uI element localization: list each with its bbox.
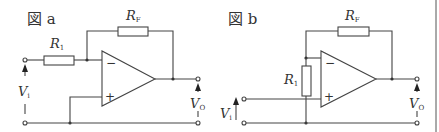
figure-b-input-terminal (242, 97, 246, 101)
figure-b-vi-label: Vi (220, 106, 232, 122)
figure-a-plus-sign: + (105, 90, 115, 104)
figure-b-resistor-r1 (302, 66, 311, 96)
figure-b: 図 b RF R1 − + Vi (220, 8, 424, 125)
figure-b-output-ground-terminal (415, 121, 419, 125)
figure-a-resistor-rf (118, 27, 148, 36)
figure-b-minus-sign: − (325, 56, 335, 70)
figure-a-junction-output (171, 77, 174, 80)
figure-a-output-terminal (196, 77, 200, 81)
figure-b-vi-arrow-icon (233, 97, 239, 105)
figure-b-plus-sign: + (324, 90, 334, 104)
figure-a-title: 図 a (27, 10, 56, 28)
figure-a-resistor-r1 (44, 56, 74, 65)
figure-a-rf-label: RF (125, 8, 141, 24)
figure-a-plus-ground-wire (70, 97, 102, 123)
figure-b-feedback-wire-right (369, 31, 392, 79)
figure-a-vi-label: Vi (18, 84, 30, 100)
figure-a-r1-label: R1 (49, 36, 64, 52)
figure-a: 図 a RF R1 − + Vi (18, 8, 205, 125)
figure-b-feedback-wire-left (306, 31, 338, 58)
figure-b-output-terminal (415, 77, 419, 81)
figure-a-junction-minus (85, 58, 88, 61)
figure-a-input-terminal (23, 58, 27, 62)
figure-b-vo-label: VO (409, 96, 424, 112)
figure-b-junction-output (390, 77, 393, 80)
figure-b-input-ground-terminal (242, 121, 246, 125)
figure-b-vo-arrow-icon (414, 83, 420, 91)
figure-a-feedback-wire-right (148, 31, 173, 79)
circuit-diagram-figure: 図 a RF R1 − + Vi (0, 0, 439, 132)
figure-a-output-ground-terminal (196, 121, 200, 125)
figure-a-vi-arrow-icon (22, 64, 28, 72)
figure-a-input-ground-terminal (23, 121, 27, 125)
figure-b-resistor-rf (338, 27, 369, 36)
figure-a-minus-sign: − (106, 56, 116, 70)
figure-a-vo-arrow-icon (195, 83, 201, 91)
figure-b-rf-label: RF (344, 8, 360, 24)
figure-b-r1-label: R1 (283, 72, 298, 88)
figure-a-vo-label: VO (190, 96, 205, 112)
figure-b-title: 図 b (228, 10, 257, 28)
